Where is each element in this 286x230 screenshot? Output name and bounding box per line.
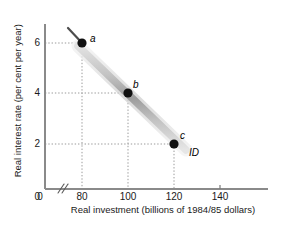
- data-point-c: [169, 139, 178, 148]
- curve-label-id: ID: [189, 148, 199, 158]
- investment-demand-band: [78, 46, 186, 150]
- y-axis-title: Real interest rate (per cent per year): [13, 21, 23, 181]
- x-tick-label-100: 100: [113, 192, 143, 202]
- x-tick-label-0: 0: [25, 192, 55, 202]
- data-point-a: [77, 38, 86, 47]
- y-tick-label-6: 6: [24, 38, 40, 48]
- x-tick-label-140: 140: [205, 192, 235, 202]
- y-tick-label-4: 4: [24, 88, 40, 98]
- y-tick-label-2: 2: [24, 139, 40, 149]
- x-tick-label-80: 80: [67, 192, 97, 202]
- point-label-b: b: [133, 80, 139, 90]
- point-label-a: a: [90, 34, 96, 44]
- x-tick-label-120: 120: [159, 192, 189, 202]
- x-axis-title: Real investment (billions of 1984/85 dol…: [40, 205, 286, 215]
- point-label-c: c: [180, 131, 185, 141]
- investment-demand-chart: 6 4 2 0 0 80 100 120 140 Real interest r…: [0, 0, 286, 230]
- data-point-b: [123, 88, 132, 97]
